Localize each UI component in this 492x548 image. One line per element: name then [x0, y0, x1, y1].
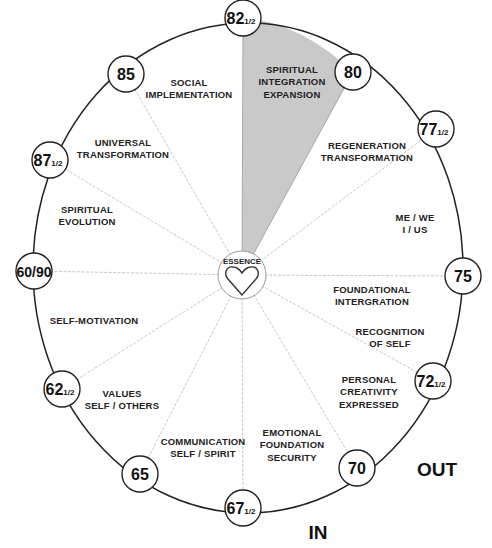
age-node-65: 65	[122, 456, 158, 492]
age-node-67: 671/2	[225, 490, 261, 526]
essence-label: ESSENCE	[223, 257, 262, 266]
segment-label: SPIRITUALINTEGRATIONEXPANSION	[259, 64, 326, 100]
segment-label: ME / WEI / US	[396, 212, 435, 236]
segment-label: SPIRITUALEVOLUTION	[58, 204, 115, 228]
svg-text:75: 75	[454, 268, 472, 285]
segment-label: SELF-MOTIVATION	[50, 315, 139, 326]
spoke-line	[126, 74, 242, 275]
age-node-77: 771/2	[418, 111, 454, 147]
spoke-line	[242, 275, 463, 276]
segment-label: PERSONALCREATIVITYEXPRESSED	[339, 374, 399, 410]
age-node-60-90: 60/90	[16, 253, 52, 289]
age-node-87: 871/2	[32, 142, 68, 178]
segment-label: REGENERATIONTRANSFORMATION	[321, 140, 413, 164]
segment-label: FOUNDATIONALINTERGRATION	[333, 284, 411, 308]
svg-text:60/90: 60/90	[16, 264, 51, 280]
age-node-70: 70	[339, 450, 375, 486]
spoke-line	[62, 275, 242, 389]
segment-label: COMMUNICATIONSELF / SPIRIT	[161, 436, 246, 460]
segment-label: UNIVERSALTRANSFORMATION	[77, 137, 169, 161]
out-label: OUT	[417, 459, 458, 480]
age-node-75: 75	[445, 258, 481, 294]
spoke-line	[242, 275, 243, 508]
segment-label: EMOTIONALFOUNDATIONSECURITY	[260, 427, 325, 463]
segment-label: VALUESSELF / OTHERS	[85, 388, 159, 412]
segment-label: RECOGNITIONOF SELF	[355, 326, 424, 350]
svg-text:70: 70	[348, 460, 366, 477]
age-node-80: 80	[335, 54, 371, 90]
age-node-72: 721/2	[415, 363, 451, 399]
svg-text:65: 65	[131, 466, 149, 483]
spoke-line	[34, 271, 242, 275]
age-node-85: 85	[108, 56, 144, 92]
age-node-82: 821/2	[225, 0, 261, 36]
svg-text:85: 85	[117, 66, 135, 83]
age-node-62: 621/2	[44, 371, 80, 407]
svg-text:80: 80	[344, 64, 362, 81]
life-cycle-wheel: ESSENCE SPIRITUALINTEGRATIONEXPANSIONREG…	[0, 0, 492, 548]
in-label: IN	[309, 522, 328, 543]
segment-label: SOCIALIMPLEMENTATION	[146, 77, 233, 101]
